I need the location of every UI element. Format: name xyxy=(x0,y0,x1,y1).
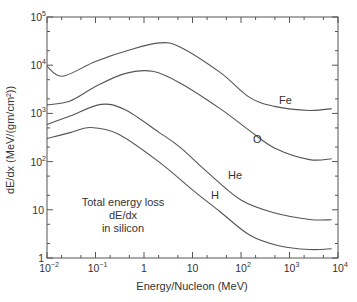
axis-ticks xyxy=(47,17,338,258)
annotation-line-1: Total energy loss xyxy=(82,196,165,208)
energy-loss-chart: 10−210−1110102103104 110102103104105 Ene… xyxy=(0,0,357,302)
curves xyxy=(47,43,332,250)
curve-label-o: O xyxy=(253,133,262,145)
y-tick-label: 102 xyxy=(30,155,46,168)
x-axis-title: Energy/Nucleon (MeV) xyxy=(136,280,247,292)
y-tick-label: 104 xyxy=(30,58,46,71)
x-tick-label: 10−1 xyxy=(88,261,108,274)
x-tick-labels: 10−210−1110102103104 xyxy=(39,261,348,274)
curve-label-fe: Fe xyxy=(279,94,292,106)
curve-o xyxy=(47,71,332,161)
annotation-line-3: in silicon xyxy=(102,222,144,234)
y-tick-label: 1 xyxy=(38,252,44,264)
x-tick-label: 1 xyxy=(141,262,147,274)
y-tick-label: 10 xyxy=(32,204,44,216)
plot-frame xyxy=(47,17,338,258)
x-tick-label: 103 xyxy=(284,261,300,274)
curve-label-h: H xyxy=(211,189,219,201)
x-tick-label: 102 xyxy=(235,261,251,274)
y-tick-label: 103 xyxy=(30,106,46,119)
y-tick-labels: 110102103104105 xyxy=(30,10,46,264)
y-axis-title: dE/dx (MeV/(gm/cm²)) xyxy=(4,86,16,194)
y-tick-label: 105 xyxy=(30,10,46,23)
annotation-line-2: dE/dx xyxy=(109,209,138,221)
curve-h xyxy=(47,127,332,249)
x-tick-label: 104 xyxy=(332,261,348,274)
curve-label-he: He xyxy=(228,169,242,181)
x-tick-label: 10 xyxy=(187,262,199,274)
